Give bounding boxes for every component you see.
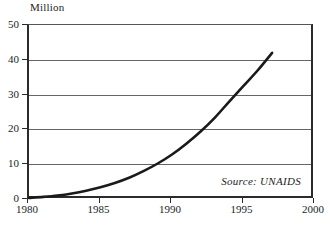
x-tick-label-1995: 1995 (231, 203, 253, 215)
x-tick-label-1985: 1985 (88, 203, 110, 215)
y-tick-mark-40 (22, 59, 27, 60)
y-axis-unit-label: Million (30, 1, 64, 13)
x-tick-label-1990: 1990 (159, 203, 181, 215)
y-tick-label-50: 50 (8, 18, 19, 30)
y-tick-mark-50 (22, 24, 27, 25)
y-tick-label-40: 40 (8, 53, 19, 65)
x-tick-label-1980: 1980 (16, 203, 38, 215)
y-tick-mark-10 (22, 163, 27, 164)
y-tick-label-10: 10 (8, 157, 19, 169)
y-tick-mark-20 (22, 128, 27, 129)
chart-screenshot: Million Source: UNAIDS 01020304050 19801… (0, 0, 330, 233)
y-tick-label-30: 30 (8, 88, 19, 100)
y-tick-mark-30 (22, 94, 27, 95)
x-tick-label-2000: 2000 (302, 203, 324, 215)
y-tick-label-20: 20 (8, 122, 19, 134)
series-curve-svg (29, 25, 315, 199)
plot-area: Source: UNAIDS (27, 24, 313, 198)
source-annotation: Source: UNAIDS (221, 175, 301, 187)
